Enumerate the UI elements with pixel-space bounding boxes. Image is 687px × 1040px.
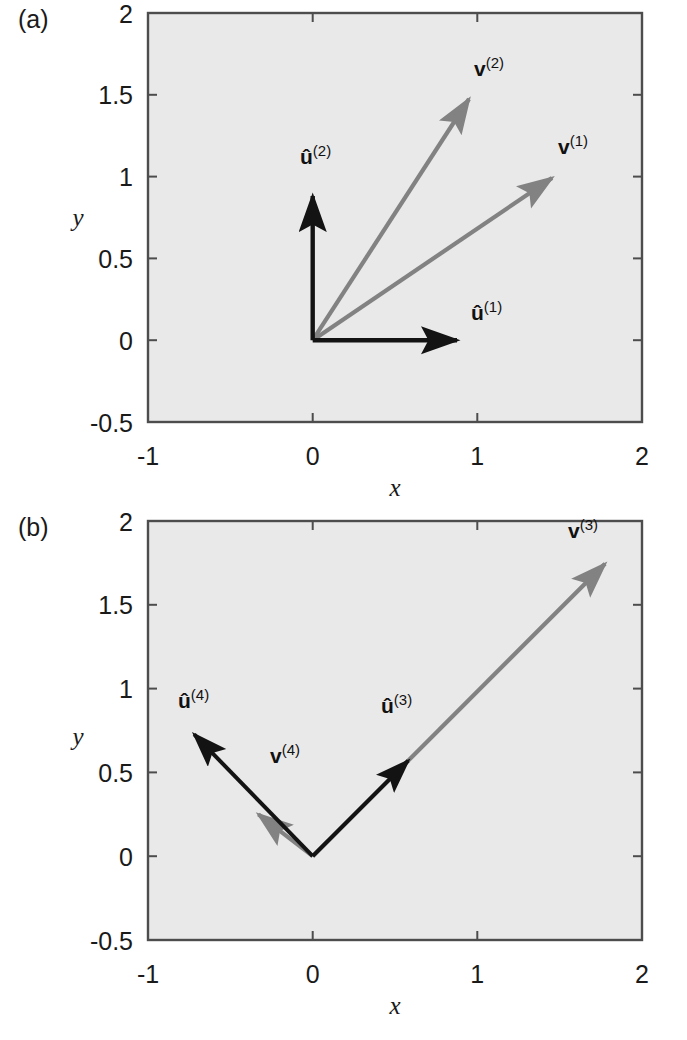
y-axis-title-b: y bbox=[69, 723, 84, 750]
y-tick-label-a-5: -0.5 bbox=[90, 409, 133, 437]
vector-basis-figure: (a) 2 1.5 1 0.5 0 -0.5 -1 0 1 2 x y bbox=[0, 0, 687, 1040]
x-tick-label-b-1: 0 bbox=[306, 960, 320, 988]
y-tick-label-a-4: 0 bbox=[119, 327, 133, 355]
panel-label-b: (b) bbox=[18, 513, 49, 541]
y-tick-label-b-2: 1 bbox=[119, 675, 133, 703]
plot-area-background-b bbox=[148, 521, 642, 940]
x-tick-label-a-2: 1 bbox=[470, 442, 484, 470]
panel-a-svg: (a) 2 1.5 1 0.5 0 -0.5 -1 0 1 2 x y bbox=[0, 0, 687, 505]
y-tick-label-b-5: -0.5 bbox=[90, 927, 133, 955]
y-tick-label-b-4: 0 bbox=[119, 843, 133, 871]
y-tick-label-b-3: 0.5 bbox=[98, 759, 133, 787]
x-tick-label-a-1: 0 bbox=[306, 442, 320, 470]
x-tick-label-a-3: 2 bbox=[635, 442, 649, 470]
x-tick-label-b-2: 1 bbox=[470, 960, 484, 988]
y-tick-label-a-0: 2 bbox=[119, 0, 133, 28]
panel-b: (b) 2 1.5 1 0.5 0 -0.5 -1 0 1 2 x y v( bbox=[0, 505, 687, 1040]
y-tick-label-a-1: 1.5 bbox=[98, 81, 133, 109]
x-tick-label-a-0: -1 bbox=[137, 442, 159, 470]
y-tick-label-a-2: 1 bbox=[119, 163, 133, 191]
panel-a: (a) 2 1.5 1 0.5 0 -0.5 -1 0 1 2 x y bbox=[0, 0, 687, 505]
panel-b-svg: (b) 2 1.5 1 0.5 0 -0.5 -1 0 1 2 x y v( bbox=[0, 505, 687, 1040]
x-tick-label-b-0: -1 bbox=[137, 960, 159, 988]
x-axis-title-b: x bbox=[388, 992, 400, 1019]
y-axis-title-a: y bbox=[69, 204, 84, 231]
x-tick-label-b-3: 2 bbox=[635, 960, 649, 988]
plot-area-background-a bbox=[148, 13, 642, 422]
panel-label-a: (a) bbox=[18, 5, 49, 33]
y-tick-label-b-1: 1.5 bbox=[98, 591, 133, 619]
y-tick-label-a-3: 0.5 bbox=[98, 245, 133, 273]
x-axis-title-a: x bbox=[388, 474, 400, 501]
y-tick-label-b-0: 2 bbox=[119, 508, 133, 536]
